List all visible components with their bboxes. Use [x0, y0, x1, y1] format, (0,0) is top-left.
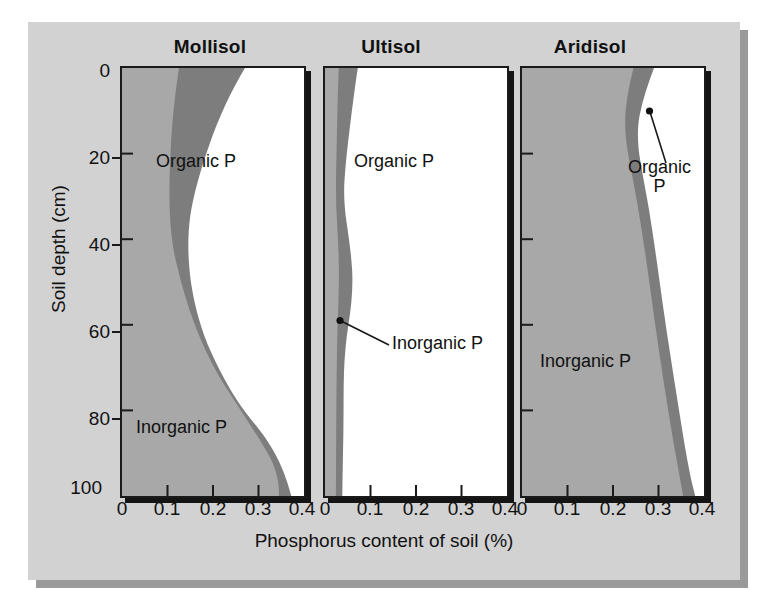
x-tick-label-p2-03: 0.3 [441, 498, 481, 520]
x-tick-label-p2-0: 0 [305, 498, 345, 520]
x-tick-label-p2-02: 0.2 [396, 498, 436, 520]
y-tick-label-0: 0 [64, 60, 110, 82]
organic-p-label-mollisol: Organic P [156, 152, 236, 171]
x-tick-label-p3-01: 0.1 [547, 498, 587, 520]
y-tick-label-20: 20 [64, 147, 110, 169]
x-tick-label-p3-03: 0.3 [638, 498, 678, 520]
organic-p-label-ultisol: Organic P [354, 152, 434, 171]
x-axis-label: Phosphorus content of soil (%) [28, 530, 740, 552]
inorganic-p-label-ultisol: Inorganic P [392, 334, 483, 353]
panel-title-ultisol: Ultisol [301, 36, 481, 58]
inorganic-p-label-aridisol: Inorganic P [540, 352, 631, 371]
x-tick-label-p3-04: 0.4 [682, 498, 722, 520]
y-tick-label-60: 60 [64, 321, 110, 343]
x-tick-label-p1-0: 0 [102, 498, 142, 520]
x-tick-label-p3-02: 0.2 [593, 498, 633, 520]
panel-title-mollisol: Mollisol [120, 36, 300, 58]
x-tick-label-p1-02: 0.2 [193, 498, 233, 520]
x-tick-label-p2-01: 0.1 [350, 498, 390, 520]
y-tick-label-80: 80 [64, 408, 110, 430]
y-tick-label-40: 40 [64, 234, 110, 256]
x-tick-label-p3-0: 0 [502, 498, 542, 520]
inorganic-p-label-mollisol: Inorganic P [136, 418, 227, 437]
organic-p-label-aridisol-line1: Organic [628, 157, 691, 177]
organic-p-label-aridisol-line2: P [654, 176, 666, 196]
panel-title-aridisol: Aridisol [500, 36, 680, 58]
panel-ultisol [323, 66, 509, 498]
figure-container: Soil depth (cm) 0 20 40 60 80 100 Mollis… [28, 22, 740, 580]
panel-aridisol [520, 66, 706, 498]
x-tick-label-p1-01: 0.1 [147, 498, 187, 520]
y-tick-label-100: 100 [56, 477, 102, 499]
x-tick-label-p1-03: 0.3 [238, 498, 278, 520]
organic-p-label-aridisol: Organic P [628, 158, 691, 196]
